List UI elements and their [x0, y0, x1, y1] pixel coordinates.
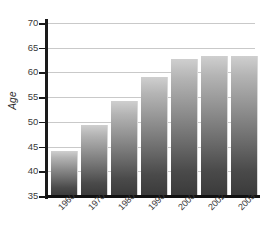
y-axis-label-40-text: 40 — [4, 165, 38, 176]
y-axis-label-45-text: 45 — [4, 141, 38, 152]
y-axis-label-65: 65 — [0, 42, 38, 54]
y-tick-55 — [39, 97, 46, 99]
y-tick-65 — [39, 48, 46, 50]
y-axis-label-60: 60 — [0, 66, 38, 78]
y-tick-35 — [39, 196, 46, 198]
y-axis-label-45: 45 — [0, 141, 38, 153]
bar-2000 — [171, 59, 198, 196]
bar-1980 — [111, 101, 138, 196]
bar-2003 — [231, 56, 258, 196]
y-axis-title: Age — [7, 81, 18, 121]
y-tick-50 — [39, 122, 46, 124]
y-tick-60 — [39, 72, 46, 74]
y-axis-label-60-text: 60 — [4, 66, 38, 77]
y-axis-label-65-text: 65 — [4, 42, 38, 53]
y-axis-label-35-text: 35 — [4, 190, 38, 201]
bar-2002 — [201, 56, 228, 196]
gridline-65 — [47, 48, 255, 49]
bar-1990 — [141, 77, 168, 196]
y-axis-label-70-text: 70 — [4, 17, 38, 28]
plot-area — [47, 23, 255, 196]
bar-1960 — [51, 151, 78, 196]
y-axis-label-35: 35 — [0, 190, 38, 202]
y-tick-40 — [39, 171, 46, 173]
bar-chart: 70 65 60 55 50 45 40 35 Age 1960 1970 19… — [0, 0, 277, 242]
y-axis-label-70: 70 — [0, 17, 38, 29]
gridline-70 — [47, 23, 255, 24]
y-tick-70 — [39, 23, 46, 25]
y-tick-45 — [39, 147, 46, 149]
bar-1970 — [81, 125, 108, 196]
y-axis-label-40: 40 — [0, 165, 38, 177]
